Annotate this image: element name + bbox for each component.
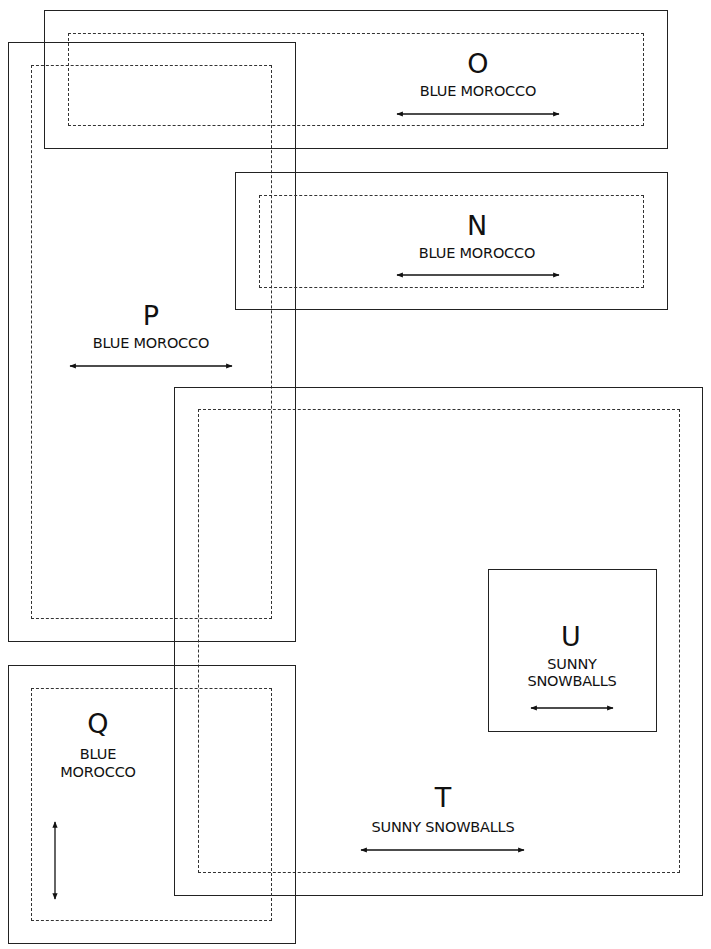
orientation-arrows — [0, 0, 711, 949]
